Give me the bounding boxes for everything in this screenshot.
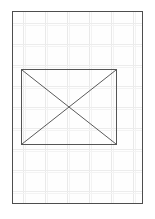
grid-line-horizontal bbox=[13, 170, 142, 171]
grid-line-vertical bbox=[135, 12, 136, 203]
grid-line-horizontal bbox=[13, 25, 142, 26]
grid-line-horizontal bbox=[13, 151, 142, 152]
grid-line-horizontal bbox=[13, 149, 142, 150]
grid-line-horizontal bbox=[13, 44, 142, 45]
grid-line-horizontal bbox=[13, 46, 142, 47]
grid-line-vertical bbox=[133, 12, 134, 203]
placeholder-cross-icon bbox=[22, 70, 116, 144]
grid-line-horizontal bbox=[13, 23, 142, 24]
grid-line-horizontal bbox=[13, 172, 142, 173]
document-page bbox=[12, 11, 143, 204]
missing-image-placeholder-icon bbox=[21, 69, 117, 145]
grid-line-horizontal bbox=[13, 191, 142, 192]
grid-line-horizontal bbox=[13, 65, 142, 66]
screenshot-canvas bbox=[0, 0, 155, 219]
grid-line-horizontal bbox=[13, 193, 142, 194]
grid-line-horizontal bbox=[13, 67, 142, 68]
